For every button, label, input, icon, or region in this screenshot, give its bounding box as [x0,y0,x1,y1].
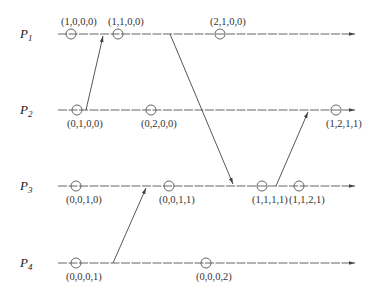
process-p3: P3 [19,178,355,195]
message-arrow [113,188,146,263]
event: (1,1,0,0) [108,16,144,39]
message-arrow [276,112,308,186]
message-arrow [86,36,103,110]
messages [86,34,308,263]
event: (1,0,0,0) [61,16,97,39]
event: (1,1,2,1) [289,181,325,206]
event: (1,2,1,1) [326,105,362,130]
process-label: P3 [19,178,33,195]
vector-clock-label: (0,0,1,1) [159,194,195,206]
event: (0,0,0,1) [66,258,102,283]
process-p2: P2 [19,102,355,119]
event: (0,0,1,1) [159,181,195,206]
event: (1,1,1,1) [252,181,288,206]
process-label: P2 [19,102,33,119]
event: (0,0,1,0) [66,181,102,206]
vector-clock-label: (0,2,0,0) [141,118,177,130]
process-p1: P1 [19,26,355,43]
vector-clock-label: (2,1,0,0) [210,16,246,28]
vector-clock-label: (1,1,2,1) [289,194,325,206]
process-p4: P4 [19,255,355,272]
vector-clock-label: (1,1,0,0) [108,16,144,28]
vector-clock-label: (1,1,1,1) [252,194,288,206]
message-arrow [170,34,233,184]
process-timelines: P1P2P3P4 [19,26,355,272]
vector-clock-label: (0,0,0,2) [196,271,232,283]
event: (2,1,0,0) [210,16,246,39]
vector-clock-label: (0,0,1,0) [66,194,102,206]
vector-clock-label: (0,0,0,1) [66,271,102,283]
process-label: P1 [19,26,32,43]
event: (0,1,0,0) [67,105,103,130]
vector-clock-label: (1,2,1,1) [326,118,362,130]
vector-clock-label: (0,1,0,0) [67,118,103,130]
vector-clock-label: (1,0,0,0) [61,16,97,28]
process-label: P4 [19,255,33,272]
events: (1,0,0,0)(1,1,0,0)(2,1,0,0)(0,1,0,0)(0,2… [61,16,362,283]
event: (0,2,0,0) [141,105,177,130]
space-time-diagram: P1P2P3P4 (1,0,0,0)(1,1,0,0)(2,1,0,0)(0,1… [0,0,392,302]
event: (0,0,0,2) [196,258,232,283]
